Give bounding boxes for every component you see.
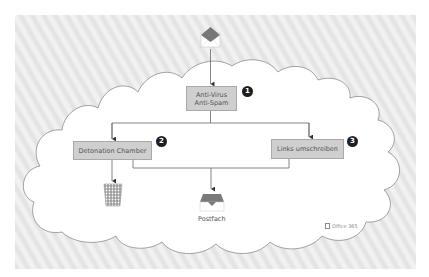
links-rewrite-label: Links umschreiben xyxy=(277,145,338,153)
office365-brand: Office 365 xyxy=(325,223,358,229)
antivirus-antispam-box: Anti-Virus Anti-Spam xyxy=(186,86,237,111)
step-badge-1: 1 xyxy=(242,86,253,97)
mailbox-label: Postfach xyxy=(198,215,226,223)
antivirus-label: Anti-Virus xyxy=(196,91,227,99)
office365-label: Office 365 xyxy=(332,223,358,229)
detonation-chamber-label: Detonation Chamber xyxy=(79,147,147,155)
diagram-canvas xyxy=(0,0,429,277)
detonation-chamber-box: Detonation Chamber xyxy=(73,141,152,160)
antispam-label: Anti-Spam xyxy=(195,99,229,107)
office-icon xyxy=(325,223,330,229)
envelope-icon xyxy=(201,27,220,47)
inbox-icon xyxy=(200,194,224,211)
trash-icon xyxy=(104,184,122,206)
links-rewrite-box: Links umschreiben xyxy=(271,139,344,159)
step-badge-3: 3 xyxy=(347,136,358,147)
step-badge-2: 2 xyxy=(156,136,167,147)
